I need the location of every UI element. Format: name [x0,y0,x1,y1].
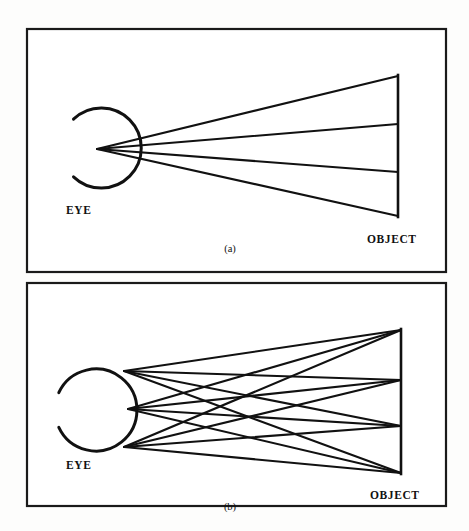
object-label-a: OBJECT [367,233,417,245]
figure-root: EYE OBJECT (a) [0,0,469,531]
panel-a: EYE OBJECT (a) [27,29,446,272]
panel-b-caption: (b) [224,501,237,513]
panel-a-caption: (a) [224,243,236,255]
eye-label-a: EYE [66,204,91,216]
panel-b-frame [27,283,446,506]
ray-diagram-svg: EYE OBJECT (a) [0,0,469,531]
object-label-b: OBJECT [370,489,420,501]
panel-b: EYE OBJECT (b) [27,283,446,513]
eye-label-b: EYE [66,459,91,471]
